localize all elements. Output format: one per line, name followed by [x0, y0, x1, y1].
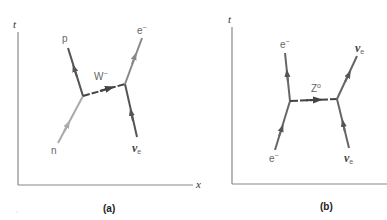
- neutron-label: n: [51, 145, 57, 156]
- t-axis-label: t: [228, 13, 232, 25]
- electron-in-line: [275, 101, 290, 150]
- neutrino-label: νe: [132, 141, 141, 155]
- panel-a: t x n p W− νe e− (a): [13, 18, 201, 214]
- electron-label: e−: [137, 24, 147, 36]
- panel-b: t e− e− Zo νe νe (b): [228, 13, 387, 212]
- panel-b-caption: (b): [320, 201, 333, 212]
- proton-arrow-icon: [74, 68, 77, 77]
- feynman-diagrams-figure: t x n p W− νe e− (a) t: [0, 0, 387, 220]
- panel-b-axes: t: [228, 13, 387, 184]
- z-boson-arrow-icon: [306, 100, 318, 101]
- proton-label: p: [62, 33, 68, 44]
- panel-a-axes: t x: [13, 18, 201, 190]
- w-boson-label: W−: [94, 70, 108, 82]
- neutron-line: [58, 96, 83, 143]
- electron-arrow-icon: [132, 56, 135, 64]
- neutrino-line: [125, 84, 137, 137]
- t-axis-label: t: [13, 18, 17, 30]
- electron-out-arrow-icon: [287, 73, 288, 82]
- z-boson-label: Zo: [311, 82, 321, 94]
- neutrino-in-arrow-icon: [343, 123, 345, 132]
- neutrino-out-label: νe: [355, 41, 364, 55]
- stray-dot: [16, 211, 17, 212]
- neutrino-arrow-icon: [131, 112, 133, 121]
- neutrino-in-label: νe: [344, 151, 353, 165]
- electron-out-label: e−: [280, 38, 290, 50]
- electron-in-label: e−: [269, 152, 279, 164]
- electron-in-arrow-icon: [279, 128, 282, 136]
- x-axis-label: x: [195, 178, 201, 190]
- panel-a-caption: (a): [103, 203, 115, 214]
- neutron-arrow-icon: [64, 124, 68, 132]
